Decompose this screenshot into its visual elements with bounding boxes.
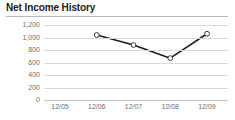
net-income-history-widget: Net Income History 02004006008001,0001,2…	[0, 0, 235, 120]
y-axis-tick-label: 800	[0, 46, 40, 54]
data-point-marker	[131, 43, 136, 48]
data-point-marker	[168, 56, 173, 61]
y-axis-tick-label: 1,200	[0, 21, 40, 29]
gridline	[44, 63, 228, 64]
x-axis-tick-label: 12/06	[77, 103, 117, 111]
x-axis-tick-label: 12/09	[187, 103, 227, 111]
gridline	[44, 100, 228, 101]
y-axis-tick-label: 400	[0, 71, 40, 79]
x-axis-tick-label: 12/08	[150, 103, 190, 111]
gridline	[44, 75, 228, 76]
data-point-marker	[205, 31, 210, 36]
gridline	[44, 88, 228, 89]
y-axis-tick-label: 1,000	[0, 34, 40, 42]
chart-plot-area: 02004006008001,0001,20012/0512/0612/0712…	[0, 0, 235, 120]
gridline	[44, 50, 228, 51]
y-axis-tick-label: 200	[0, 84, 40, 92]
y-axis-tick-label: 600	[0, 59, 40, 67]
x-axis-tick-label: 12/07	[114, 103, 154, 111]
y-axis-tick-label: 0	[0, 96, 40, 104]
x-axis-tick-label: 12/05	[40, 103, 80, 111]
gridline	[44, 38, 228, 39]
gridline	[44, 25, 228, 26]
net-income-markers	[94, 31, 209, 60]
